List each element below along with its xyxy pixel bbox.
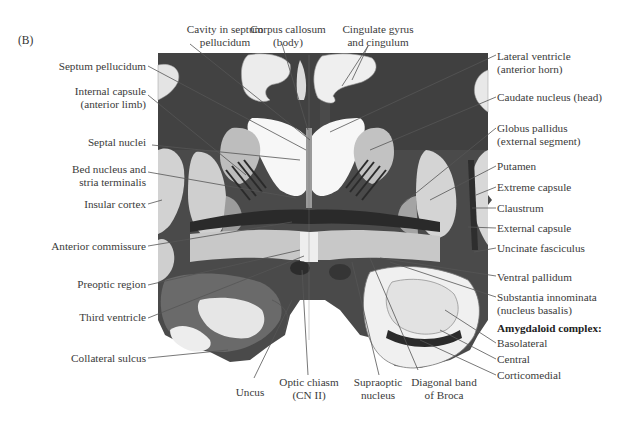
label-external-capsule: External capsule bbox=[497, 222, 571, 235]
label-preoptic-region: Preoptic region bbox=[77, 278, 146, 291]
label-globus-pallidus: Globus pallidus (external segment) bbox=[497, 122, 581, 147]
label-line: Internal capsule bbox=[75, 85, 146, 98]
label-line: Uncinate fasciculus bbox=[497, 242, 585, 255]
label-line: (nucleus basalis) bbox=[497, 304, 597, 317]
label-claustrum: Claustrum bbox=[497, 202, 544, 215]
label-line: Corpus callosum bbox=[238, 23, 338, 36]
label-line: Putamen bbox=[497, 160, 536, 173]
brain-coronal-section-figure: (B) Cavity in septum pellucidum Corpus c… bbox=[0, 0, 636, 423]
label-supraoptic-nucleus: Supraoptic nucleus bbox=[348, 376, 408, 401]
label-caudate-nucleus: Caudate nucleus (head) bbox=[497, 91, 602, 104]
label-bed-nucleus: Bed nucleus and stria terminalis bbox=[72, 163, 146, 188]
label-cingulate-gyrus: Cingulate gyrus and cingulum bbox=[330, 23, 426, 48]
label-corticomedial: Corticomedial bbox=[497, 369, 561, 382]
label-septal-nuclei: Septal nuclei bbox=[88, 136, 146, 149]
label-line: (body) bbox=[238, 36, 338, 49]
label-substantia-innominata: Substantia innominata (nucleus basalis) bbox=[497, 291, 597, 316]
label-line: (anterior horn) bbox=[497, 63, 571, 76]
label-internal-capsule: Internal capsule (anterior limb) bbox=[75, 85, 146, 110]
label-extreme-capsule: Extreme capsule bbox=[497, 181, 571, 194]
label-ventral-pallidum: Ventral pallidum bbox=[497, 271, 572, 284]
label-line: Central bbox=[497, 353, 530, 366]
label-optic-chiasm: Optic chiasm (CN II) bbox=[276, 376, 342, 401]
label-anterior-commissure: Anterior commissure bbox=[51, 240, 146, 253]
label-line: Uncus bbox=[228, 386, 272, 399]
label-amygdaloid-complex-heading: Amygdaloid complex: bbox=[497, 322, 602, 335]
label-corpus-callosum: Corpus callosum (body) bbox=[238, 23, 338, 48]
label-line: Septal nuclei bbox=[88, 136, 146, 149]
label-line: nucleus bbox=[348, 389, 408, 402]
label-insular-cortex: Insular cortex bbox=[84, 198, 146, 211]
label-line: Basolateral bbox=[497, 337, 547, 350]
label-line: Septum pellucidum bbox=[59, 60, 146, 73]
label-central: Central bbox=[497, 353, 530, 366]
label-line: stria terminalis bbox=[72, 176, 146, 189]
label-line: Preoptic region bbox=[77, 278, 146, 291]
label-line: Anterior commissure bbox=[51, 240, 146, 253]
label-line: Optic chiasm bbox=[276, 376, 342, 389]
label-line: Bed nucleus and bbox=[72, 163, 146, 176]
label-line: Substantia innominata bbox=[497, 291, 597, 304]
panel-label: (B) bbox=[18, 34, 33, 46]
label-line: Lateral ventricle bbox=[497, 50, 571, 63]
label-putamen: Putamen bbox=[497, 160, 536, 173]
label-line: (external segment) bbox=[497, 135, 581, 148]
label-line: Cingulate gyrus bbox=[330, 23, 426, 36]
label-basolateral: Basolateral bbox=[497, 337, 547, 350]
label-line: Insular cortex bbox=[84, 198, 146, 211]
label-line: Globus pallidus bbox=[497, 122, 581, 135]
label-uncinate-fasciculus: Uncinate fasciculus bbox=[497, 242, 585, 255]
label-line: Collateral sulcus bbox=[71, 352, 146, 365]
label-septum-pellucidum: Septum pellucidum bbox=[59, 60, 146, 73]
label-line: Extreme capsule bbox=[497, 181, 571, 194]
label-collateral-sulcus: Collateral sulcus bbox=[71, 352, 146, 365]
label-line: Ventral pallidum bbox=[497, 271, 572, 284]
label-line: Claustrum bbox=[497, 202, 544, 215]
label-line: External capsule bbox=[497, 222, 571, 235]
label-line: Third ventricle bbox=[79, 311, 146, 324]
label-line: Supraoptic bbox=[348, 376, 408, 389]
label-line: and cingulum bbox=[330, 36, 426, 49]
label-line: Amygdaloid complex: bbox=[497, 322, 602, 335]
label-lateral-ventricle: Lateral ventricle (anterior horn) bbox=[497, 50, 571, 75]
label-line: Corticomedial bbox=[497, 369, 561, 382]
label-line: of Broca bbox=[406, 389, 482, 402]
label-line: Diagonal band bbox=[406, 376, 482, 389]
label-line: Caudate nucleus (head) bbox=[497, 91, 602, 104]
label-third-ventricle: Third ventricle bbox=[79, 311, 146, 324]
label-uncus: Uncus bbox=[228, 386, 272, 399]
label-line: (CN II) bbox=[276, 389, 342, 402]
label-diagonal-band-of-broca: Diagonal band of Broca bbox=[406, 376, 482, 401]
label-line: (anterior limb) bbox=[75, 98, 146, 111]
